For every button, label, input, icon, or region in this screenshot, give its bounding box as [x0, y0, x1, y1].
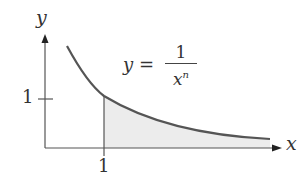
x-axis-label: x	[286, 132, 297, 154]
y-axis-label: y	[36, 6, 47, 28]
shaded-region	[104, 96, 270, 148]
denominator-exponent: n	[183, 69, 189, 80]
x-axis-arrow-icon	[272, 145, 282, 152]
y-tick-label: 1	[22, 86, 33, 107]
x-tick-label: 1	[98, 155, 109, 176]
equation-fraction: 1 xn	[163, 42, 199, 90]
equation-lhs: y =	[123, 54, 154, 75]
equation-denominator: xn	[163, 64, 199, 90]
figure: y x 1 1 y = 1 xn	[0, 0, 304, 182]
y-axis-arrow-icon	[42, 34, 49, 43]
equation-numerator: 1	[163, 42, 199, 62]
denominator-base: x	[173, 69, 183, 89]
